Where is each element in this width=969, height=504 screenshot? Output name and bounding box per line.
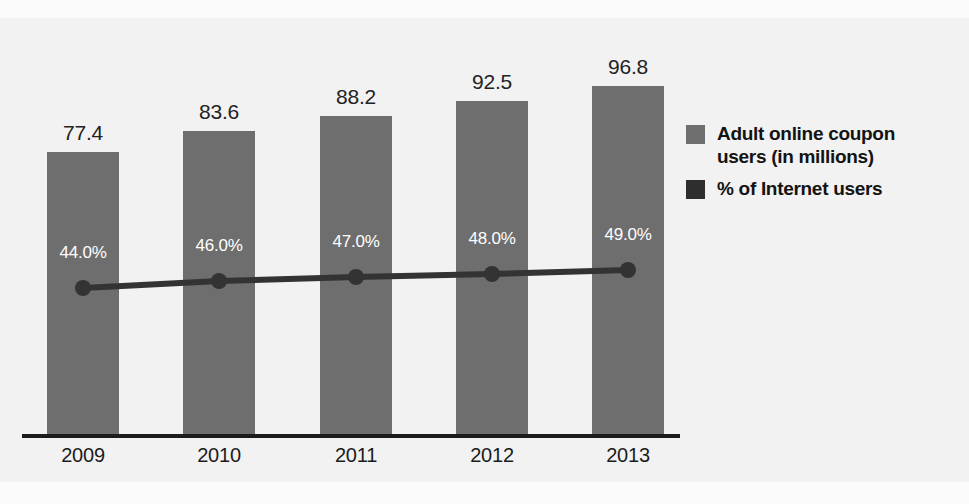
- legend-label-line2: users (in millions): [717, 146, 874, 167]
- x-tick-2012: 2012: [452, 444, 532, 467]
- legend-label-line1: Adult online coupon: [717, 123, 895, 144]
- legend-item-coupon-users: Adult online coupon users (in millions): [686, 122, 956, 168]
- pct-label-2009: 44.0%: [43, 243, 123, 263]
- bar-value-2010: 83.6: [183, 100, 255, 124]
- bar-2011: [320, 116, 392, 436]
- legend-label-coupon-users: Adult online coupon users (in millions): [717, 122, 895, 168]
- chart-legend: Adult online coupon users (in millions) …: [686, 122, 956, 210]
- legend-swatch-icon-bar: [686, 125, 705, 144]
- chart-page: 77.4 83.6 88.2 92.5 96.8 44.0% 46.0% 47.…: [0, 0, 969, 504]
- bar-value-2011: 88.2: [320, 85, 392, 109]
- x-axis-line: [22, 434, 680, 438]
- pct-label-2011: 47.0%: [316, 232, 396, 252]
- x-tick-2011: 2011: [316, 444, 396, 467]
- pct-label-2013: 49.0%: [588, 225, 668, 245]
- legend-swatch-icon-line: [686, 180, 705, 199]
- bar-2009: [47, 152, 119, 436]
- bar-2012: [456, 101, 528, 436]
- pct-label-2010: 46.0%: [179, 236, 259, 256]
- bar-value-2012: 92.5: [456, 70, 528, 94]
- bar-value-2009: 77.4: [47, 121, 119, 145]
- x-tick-2009: 2009: [43, 444, 123, 467]
- pct-label-2012: 48.0%: [452, 229, 532, 249]
- plot-area: 77.4 83.6 88.2 92.5 96.8 44.0% 46.0% 47.…: [0, 0, 969, 504]
- bar-2013: [592, 86, 664, 436]
- legend-label-internet-users: % of Internet users: [717, 177, 882, 200]
- bar-value-2013: 96.8: [592, 55, 664, 79]
- legend-item-internet-users: % of Internet users: [686, 177, 956, 200]
- x-tick-2013: 2013: [588, 444, 668, 467]
- x-tick-2010: 2010: [179, 444, 259, 467]
- bar-2010: [183, 131, 255, 436]
